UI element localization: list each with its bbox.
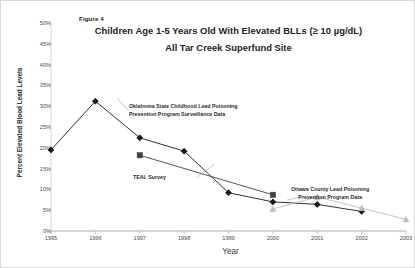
annotation-oklahoma-line-2: Prevention Program Surveillance Data: [129, 110, 238, 118]
x-tick-label: 1997: [134, 235, 146, 241]
annotation-oklahoma: Oklahoma State Childhood Lead Poisoning …: [129, 102, 238, 118]
annotation-leader-line: [117, 98, 129, 111]
x-tick-label: 2000: [267, 235, 279, 241]
x-tick-label: 1995: [45, 235, 57, 241]
x-tick-label: 2003: [400, 235, 412, 241]
data-point-marker: [270, 192, 275, 197]
x-tick-label: 1998: [178, 235, 190, 241]
data-point-marker: [137, 153, 142, 158]
x-tick-label: 2002: [355, 235, 367, 241]
x-tick-label: 2001: [311, 235, 323, 241]
annotation-ottawa: Ottawa County Lead Poisoning Prevention …: [291, 185, 369, 201]
chart-figure: Figure 4 Children Age 1-5 Years Old With…: [0, 0, 415, 268]
annotation-oklahoma-line-1: Oklahoma State Childhood Lead Poisoning: [129, 102, 238, 110]
x-tick-label: 1999: [222, 235, 234, 241]
annotation-ottawa-line-1: Ottawa County Lead Poisoning: [291, 185, 369, 193]
data-point-marker: [270, 199, 275, 204]
data-point-marker: [315, 202, 320, 207]
annotation-teal-survey: TEAL Survey: [133, 173, 166, 181]
plot-area: [1, 1, 415, 268]
annotation-ottawa-line-2: Prevention Program Data: [291, 193, 369, 201]
x-tick-label: 1996: [89, 235, 101, 241]
